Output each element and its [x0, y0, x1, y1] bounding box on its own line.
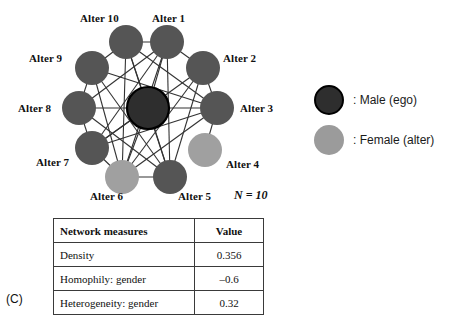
network-node-a6[interactable]: [105, 160, 139, 194]
table-cell-measure: Homophily: gender: [54, 267, 195, 291]
network-node-a2[interactable]: [186, 51, 220, 85]
node-label-a3: Alter 3: [240, 102, 273, 114]
node-label-a10: Alter 10: [80, 12, 119, 24]
table-cell-value: 0.356: [195, 243, 264, 267]
table-header-value: Value: [195, 219, 264, 243]
network-measures-table: Network measures Value Density0.356Homop…: [53, 218, 264, 315]
node-label-a8: Alter 8: [18, 102, 51, 114]
node-label-a1: Alter 1: [152, 12, 185, 24]
legend: : Male (ego) : Female (alter): [314, 80, 464, 160]
table-row: Density0.356: [54, 243, 264, 267]
network-node-a5[interactable]: [153, 160, 187, 194]
table-cell-value: 0.32: [195, 291, 264, 315]
node-label-a9: Alter 9: [29, 52, 62, 64]
network-graph: Alter 1Alter 2Alter 3Alter 4Alter 5Alter…: [0, 0, 280, 205]
table-header-measure: Network measures: [54, 219, 195, 243]
network-node-ego[interactable]: [127, 87, 169, 129]
table-header-row: Network measures Value: [54, 219, 264, 243]
table-cell-measure: Heterogeneity: gender: [54, 291, 195, 315]
node-label-a2: Alter 2: [223, 52, 256, 64]
network-node-a8[interactable]: [62, 91, 96, 125]
network-node-a3[interactable]: [200, 91, 234, 125]
table-cell-measure: Density: [54, 243, 195, 267]
table-cell-value: –0.6: [195, 267, 264, 291]
network-node-a9[interactable]: [75, 51, 109, 85]
legend-label-male: : Male (ego): [353, 93, 417, 107]
table-row: Homophily: gender–0.6: [54, 267, 264, 291]
node-label-a5: Alter 5: [178, 190, 211, 202]
figure-panel: Alter 1Alter 2Alter 3Alter 4Alter 5Alter…: [0, 0, 465, 320]
network-edge: [122, 42, 126, 177]
table-body: Density0.356Homophily: gender–0.6Heterog…: [54, 243, 264, 315]
legend-item-male: : Male (ego): [314, 80, 464, 120]
male-circle-icon: [314, 85, 344, 115]
network-node-a10[interactable]: [109, 25, 143, 59]
panel-letter: (C): [6, 292, 23, 306]
legend-label-female: : Female (alter): [353, 133, 434, 147]
network-node-a1[interactable]: [150, 25, 184, 59]
network-node-a4[interactable]: [188, 133, 222, 167]
female-circle-icon: [314, 125, 344, 155]
network-node-a7[interactable]: [75, 131, 109, 165]
legend-item-female: : Female (alter): [314, 120, 464, 160]
sample-size-annotation: N = 10: [234, 188, 268, 203]
node-label-a6: Alter 6: [90, 190, 123, 202]
table-row: Heterogeneity: gender0.32: [54, 291, 264, 315]
node-label-a4: Alter 4: [226, 158, 259, 170]
node-label-a7: Alter 7: [36, 156, 69, 168]
